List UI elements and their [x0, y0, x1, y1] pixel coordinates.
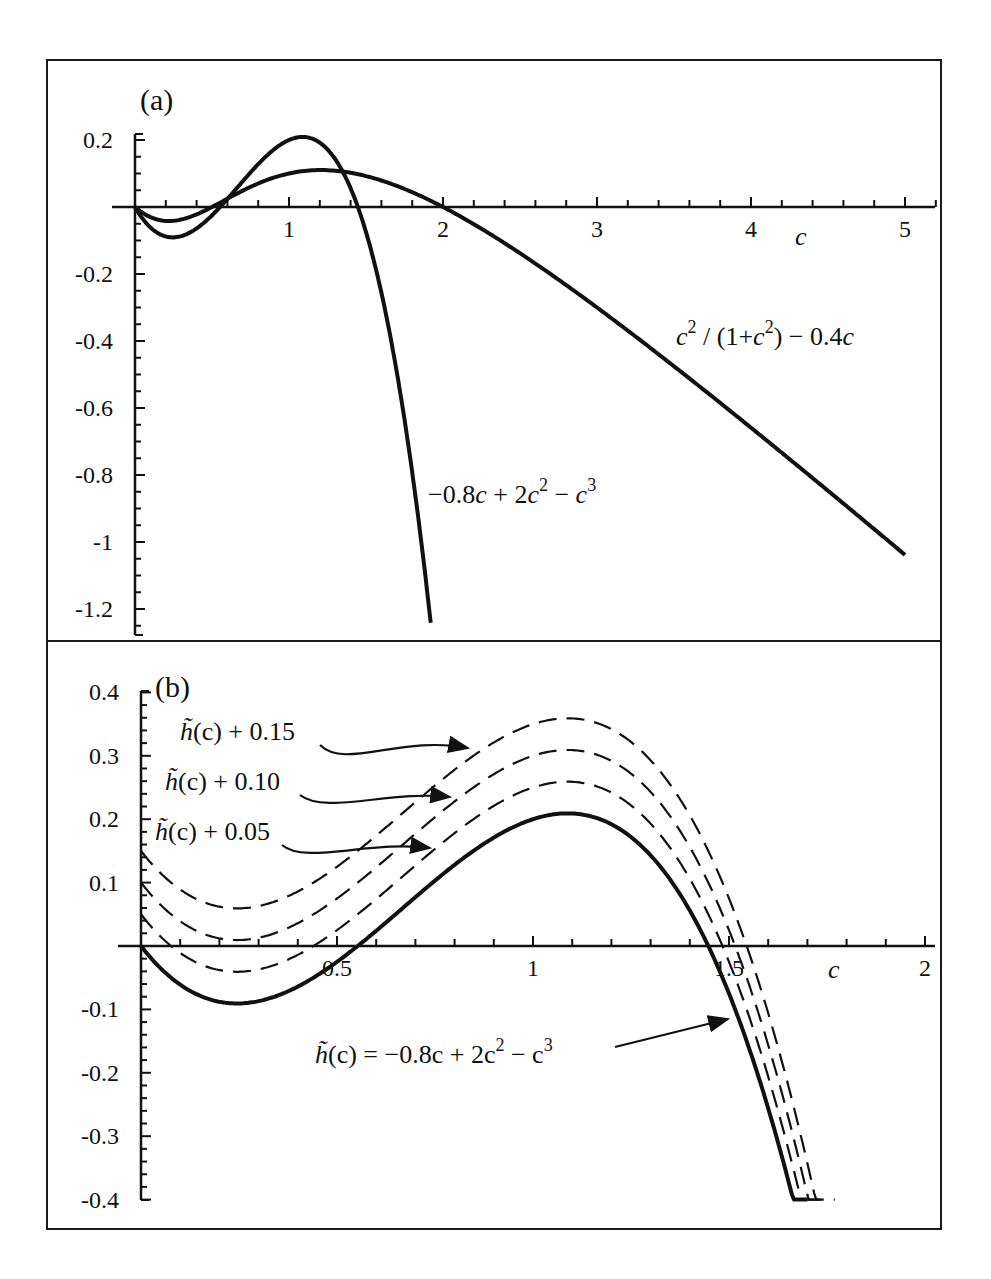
- solid-curve: [141, 813, 807, 1199]
- panel-a: (a) 123450.2-0.2-0.4-0.6-0.8-1-1.2 c c2 …: [75, 83, 936, 635]
- y-tick-label: -0.4: [81, 1187, 119, 1213]
- y-tick-label: -0.8: [75, 462, 113, 488]
- arrow-offset-010: [300, 795, 450, 803]
- figure: (a) 123450.2-0.2-0.4-0.6-0.8-1-1.2 c c2 …: [0, 0, 991, 1279]
- panel-a-curves: [135, 137, 905, 623]
- x-tick-label: 2: [437, 216, 449, 242]
- y-tick-label: -0.1: [81, 996, 119, 1022]
- panel-a-x-axis-label: c: [795, 222, 807, 251]
- y-tick-label: -1.2: [75, 596, 113, 622]
- panel-a-tick-labels: 123450.2-0.2-0.4-0.6-0.8-1-1.2: [75, 127, 911, 622]
- y-tick-label: -0.3: [81, 1123, 119, 1149]
- y-tick-label: 0.4: [89, 679, 119, 705]
- annotation-base-curve: h̃(c) = −0.8c + 2c2 − c3: [315, 1035, 553, 1069]
- y-tick-label: -0.2: [81, 1060, 119, 1086]
- x-tick-label: 5: [899, 216, 911, 242]
- panel-b: (b) 0.511.520.40.30.20.1-0.1-0.2-0.3-0.4…: [81, 670, 935, 1213]
- panel-a-axes: [112, 134, 936, 635]
- arrow-base-curve: [615, 1019, 728, 1047]
- panel-b-label: (b): [155, 670, 190, 704]
- y-tick-label: -1: [93, 529, 113, 555]
- x-tick-label: 4: [745, 216, 757, 242]
- panel-b-x-axis-label: c: [828, 955, 840, 984]
- x-tick-label: 2: [919, 955, 931, 981]
- solid-curve: [135, 137, 431, 623]
- x-tick-label: 1: [283, 216, 295, 242]
- y-tick-label: 0.2: [83, 127, 113, 153]
- y-tick-label: -0.6: [75, 395, 113, 421]
- y-tick-label: -0.4: [75, 328, 113, 354]
- y-tick-label: 0.2: [89, 806, 119, 832]
- x-tick-label: 3: [591, 216, 603, 242]
- x-tick-label: 1: [527, 955, 539, 981]
- y-tick-label: -0.2: [75, 261, 113, 287]
- y-tick-label: 0.1: [89, 870, 119, 896]
- annotation-rational-curve: c2 / (1+c2) − 0.4c: [676, 317, 854, 351]
- annotation-offset-005: h̃(c) + 0.05: [155, 817, 270, 846]
- panel-a-label: (a): [140, 83, 173, 117]
- y-tick-label: 0.3: [89, 743, 119, 769]
- annotation-offset-010: h̃(c) + 0.10: [165, 767, 280, 796]
- arrow-offset-005: [282, 845, 430, 853]
- arrow-offset-015: [320, 745, 468, 754]
- annotation-cubic-curve: −0.8c + 2c2 − c3: [428, 475, 596, 509]
- annotation-offset-015: h̃(c) + 0.15: [180, 717, 295, 746]
